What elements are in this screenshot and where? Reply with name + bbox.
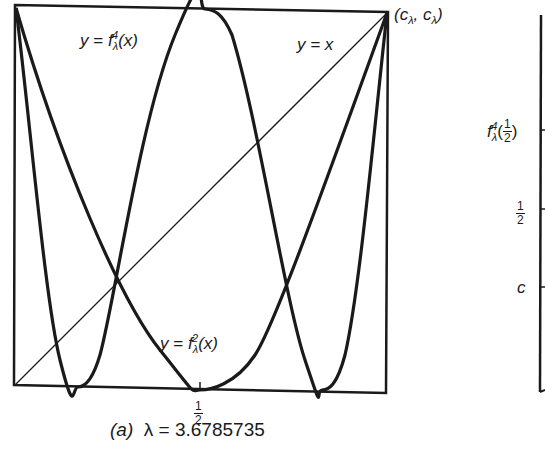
corner-point-label: (cλ, cλ) bbox=[394, 6, 443, 26]
panel-b-label-half: 12 bbox=[516, 200, 525, 226]
panel-b-label-f4-half: fλ4(12) bbox=[487, 118, 517, 144]
f2-curve-label: y = fλ2(x) bbox=[160, 333, 218, 355]
panel-a-caption: (a) λ = 3.6785735 bbox=[110, 419, 265, 441]
f4-curve-label: y = fλ4(x) bbox=[80, 30, 138, 52]
diagonal-label: y = x bbox=[297, 36, 333, 53]
diagonal-line bbox=[15, 12, 388, 385]
panel-b-axis bbox=[540, 15, 541, 392]
panel-b-label-c: c bbox=[517, 279, 526, 296]
plot-canvas bbox=[0, 0, 545, 471]
figure: y = fλ4(x) y = x (cλ, cλ) y = fλ2(x) 12 … bbox=[0, 0, 545, 471]
